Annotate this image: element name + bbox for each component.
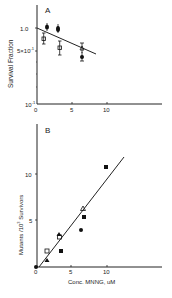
figure: A 1.0 5×10-1 10-1 0 5 10 Survival Fracti… [0, 0, 172, 298]
panel-a-filled-points [45, 23, 84, 61]
panel-b-ylabel: Mutants /103 Survivors [16, 195, 24, 255]
panel-a-open-points [42, 33, 84, 55]
panel-b-xlabel: Conc. MNNG, uM [68, 279, 115, 285]
panel-a-ytick-5e-1: 5×10-1 [17, 46, 35, 54]
panel-b-xtick-10: 10 [103, 269, 110, 275]
panel-b-xtick-5: 5 [69, 269, 73, 275]
panel-a-label: A [45, 6, 51, 15]
panel-b-points [34, 165, 108, 269]
panel-b: B 10 5 0 5 10 Conc. MNNG, uM Mutants /10… [16, 124, 162, 285]
panel-b-xtick-0: 0 [34, 269, 38, 275]
panel-b-ytick-10: 10 [25, 172, 32, 178]
panel-a-xtick-5: 5 [70, 107, 74, 113]
panel-a-fit-line [37, 28, 96, 54]
panel-a-xtick-0: 0 [34, 107, 38, 113]
panel-b-ytick-5: 5 [29, 218, 33, 224]
panel-b-fit-line [39, 157, 124, 267]
panel-a-ylabel: Survival Fraction [7, 39, 14, 88]
panel-a-xtick-10: 10 [103, 107, 110, 113]
panel-a: A 1.0 5×10-1 10-1 0 5 10 Survival Fracti… [7, 5, 162, 113]
panel-b-label: B [45, 126, 50, 135]
panel-a-ytick-1: 1.0 [20, 26, 29, 32]
